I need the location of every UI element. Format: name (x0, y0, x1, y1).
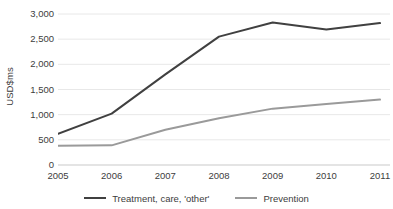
legend-item[interactable]: Treatment, care, 'other' (84, 193, 209, 204)
y-tick-label: 3,000 (30, 9, 54, 19)
y-axis-tick-labels: 05001,0001,5002,0002,5003,000 (14, 0, 58, 172)
chart-legend: Treatment, care, 'other'Prevention (0, 188, 393, 208)
y-tick-label: 2,000 (30, 59, 54, 69)
y-tick-label: 500 (38, 135, 54, 145)
y-tick-label: 0 (49, 160, 54, 170)
plot-area (58, 0, 390, 172)
legend-item[interactable]: Prevention (235, 193, 308, 204)
line-chart: USD$ms 05001,0001,5002,0002,5003,000 200… (0, 0, 393, 209)
y-tick-label: 2,500 (30, 34, 54, 44)
legend-line-swatch-icon (235, 197, 257, 199)
x-tick-label: 2010 (316, 170, 337, 181)
x-tick-label: 2011 (370, 170, 390, 181)
legend-label: Treatment, care, 'other' (112, 193, 209, 204)
plot-svg (58, 0, 390, 172)
legend-label: Prevention (263, 193, 308, 204)
y-tick-label: 1,500 (30, 85, 54, 95)
legend-line-swatch-icon (84, 197, 106, 199)
x-tick-label: 2006 (101, 170, 122, 181)
x-tick-label: 2009 (262, 170, 283, 181)
x-tick-label: 2008 (208, 170, 229, 181)
x-axis-tick-labels: 2005200620072008200920102011 (58, 168, 390, 186)
gridlines (58, 14, 390, 140)
y-tick-label: 1,000 (30, 110, 54, 120)
x-tick-label: 2005 (47, 170, 68, 181)
y-axis-title-label: USD$ms (4, 67, 15, 106)
series-line-1 (58, 100, 380, 146)
data-series (58, 23, 380, 146)
x-tick-label: 2007 (155, 170, 176, 181)
